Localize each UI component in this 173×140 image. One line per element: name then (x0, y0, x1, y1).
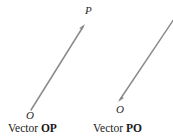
caption-vector-op-prefix: Vector (8, 122, 41, 134)
vector-po-arrow (118, 19, 173, 102)
caption-vector-po: Vector PO (93, 123, 142, 135)
vector-po-shaft (120, 19, 173, 100)
caption-vector-po-prefix: Vector (93, 122, 126, 134)
caption-vector-op-name: OP (41, 122, 57, 134)
vector-diagram-figure: P O O Vector OP Vector PO (0, 0, 173, 140)
vector-op-arrow (31, 24, 85, 110)
point-label-o-left: O (26, 110, 34, 121)
vector-op-shaft (31, 27, 83, 111)
caption-vector-po-name: PO (126, 122, 142, 134)
point-label-p: P (85, 5, 92, 16)
point-label-o-right: O (116, 104, 124, 115)
caption-vector-op: Vector OP (8, 123, 57, 135)
